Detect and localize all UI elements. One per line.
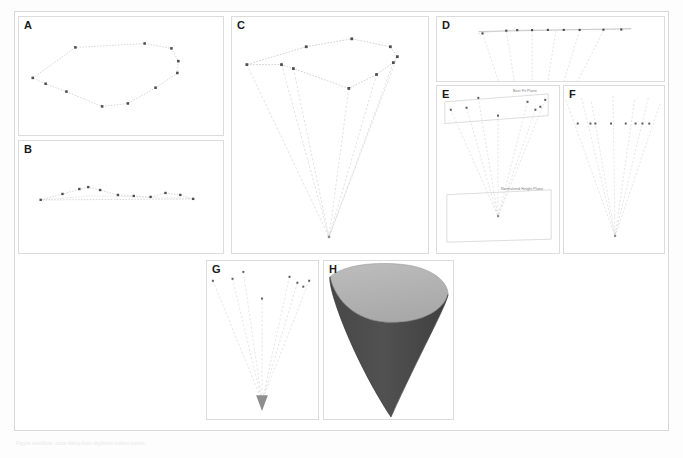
- apex-rays-g: [213, 272, 309, 401]
- panel-f-normalized-cone: F: [563, 85, 665, 254]
- panel-g-converging-rays: G: [206, 260, 319, 420]
- vertex-points-a: [31, 42, 179, 107]
- apex-marker-g: [256, 395, 268, 411]
- panel-label-c: C: [237, 19, 245, 31]
- panel-c-oblique-cone-wireframe: C: [231, 16, 429, 254]
- vertex-points-g: [212, 271, 310, 300]
- figure-root: A B: [0, 0, 683, 458]
- panel-h-plot: [324, 261, 453, 419]
- apex-rays-c: [247, 57, 397, 237]
- panel-label-e: E: [442, 88, 449, 100]
- panel-label-g: G: [212, 263, 221, 275]
- panel-a-plot: [19, 17, 223, 135]
- panel-label-d: D: [442, 19, 450, 31]
- panel-h-rendered-solid-cone: H: [323, 260, 454, 420]
- panel-label-a: A: [24, 19, 32, 31]
- panel-g-plot: [207, 261, 318, 419]
- panel-label-b: B: [24, 143, 32, 155]
- apex-rays-f: [566, 96, 660, 236]
- panel-label-h: H: [329, 263, 337, 275]
- vertex-points-c: [245, 37, 398, 89]
- panel-label-f: F: [569, 88, 576, 100]
- panel-a-plan-view-outline: A: [18, 16, 224, 136]
- apex-rays-d: [483, 31, 604, 81]
- best-fit-plane-quad: [445, 94, 548, 124]
- panel-b-profile-view: B: [18, 140, 224, 254]
- panel-e-plot: [437, 86, 559, 253]
- apex-point-f: [614, 235, 616, 237]
- apex-point-e: [497, 215, 499, 217]
- outline-path-a: [33, 44, 179, 107]
- panel-b-plot: [19, 141, 223, 253]
- figure-caption: Figure workflow: cone fitting from digit…: [16, 440, 666, 454]
- best-fit-plane-label: Best Fit Plane: [513, 89, 537, 93]
- rim-line-d: [479, 29, 632, 34]
- normalized-height-plane-label: Normalized Height Plane: [501, 187, 543, 191]
- panel-c-plot: [232, 17, 428, 253]
- panel-d-side-elevation: D: [436, 16, 665, 82]
- apex-point-c: [328, 236, 330, 238]
- vertex-points-e: [450, 97, 546, 117]
- panel-f-plot: [564, 86, 664, 253]
- panel-e-plane-fitting: E Best Fit Plane Normalized Height Plane: [436, 85, 560, 254]
- panel-d-plot: [437, 17, 664, 81]
